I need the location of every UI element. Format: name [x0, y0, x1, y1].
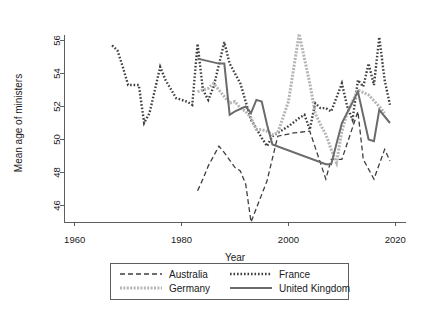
x-axis-title: Year [225, 252, 246, 263]
legend-label-united-kingdom: United Kingdom [279, 283, 350, 294]
x-tick-label: 2000 [278, 234, 299, 245]
x-tick-label: 2020 [385, 234, 406, 245]
series-line-france [112, 37, 390, 146]
x-tick-label: 1980 [171, 234, 192, 245]
y-tick-group: 464850525456 [51, 35, 65, 211]
series-group [112, 34, 390, 222]
series-line-united-kingdom [198, 59, 390, 165]
series-line-australia [198, 111, 390, 222]
legend-label-france: France [279, 269, 311, 280]
legend-label-germany: Germany [169, 283, 210, 294]
y-tick-label: 46 [51, 200, 62, 211]
y-axis-title: Mean age of ministers [13, 74, 24, 172]
x-tick-group: 1960198020002020 [64, 222, 406, 245]
line-chart: 464850525456 Mean age of ministers 19601… [0, 0, 437, 314]
y-tick-label: 54 [51, 68, 62, 79]
chart-figure: 464850525456 Mean age of ministers 19601… [0, 0, 437, 314]
y-tick-label: 56 [51, 35, 62, 46]
y-axis: 464850525456 Mean age of ministers [13, 35, 65, 223]
x-tick-label: 1960 [64, 234, 85, 245]
legend: AustraliaFranceGermanyUnited Kingdom [110, 263, 350, 299]
plot-area [112, 34, 390, 222]
x-axis: 1960198020002020 Year [64, 222, 406, 263]
legend-label-australia: Australia [169, 269, 208, 280]
y-tick-label: 50 [51, 134, 62, 145]
legend-border [110, 263, 348, 299]
y-tick-label: 48 [51, 167, 62, 178]
y-tick-label: 52 [51, 101, 62, 112]
